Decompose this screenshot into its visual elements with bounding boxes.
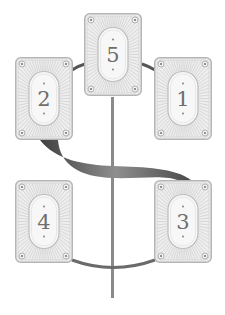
card-number: 4 [15, 180, 73, 263]
card-3[interactable]: 3 [154, 180, 212, 263]
card-2[interactable]: 2 [15, 57, 73, 140]
ribbon-band [40, 140, 191, 181]
card-1[interactable]: 1 [154, 57, 212, 140]
card-number: 3 [154, 180, 212, 263]
card-number: 1 [154, 57, 212, 140]
card-number: 5 [84, 13, 142, 96]
card-spread-diagram: 5 2 1 4 3 [0, 0, 225, 315]
card-number: 2 [15, 57, 73, 140]
card-5[interactable]: 5 [84, 13, 142, 96]
card-4[interactable]: 4 [15, 180, 73, 263]
